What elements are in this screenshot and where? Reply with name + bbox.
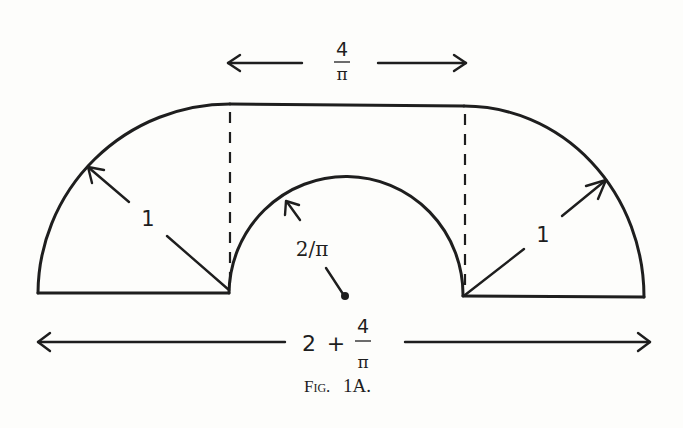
right-radius-lower-shaft	[465, 249, 524, 295]
bottom-dimension-arrow: 2 + 4 π	[38, 315, 650, 372]
top-width-denominator: π	[336, 64, 347, 84]
total-width-denominator: π	[357, 352, 368, 372]
inner-semicircle	[229, 177, 463, 296]
inner-radius-leader	[326, 268, 343, 294]
left-radius-label: 1	[141, 207, 154, 231]
top-dimension-arrow: 4 π	[228, 38, 466, 84]
left-radius-lower-shaft	[167, 236, 229, 290]
total-width-numerator: 4	[357, 315, 369, 337]
figure-caption: Fig. 1A.	[304, 375, 371, 396]
top-width-numerator: 4	[336, 38, 348, 60]
inner-radius-label: 2/π	[296, 237, 329, 261]
top-edge	[230, 104, 464, 106]
total-width-whole: 2	[302, 331, 316, 356]
right-outer-arc	[464, 106, 644, 297]
figure-1a-diagram: 4 π 1 1 2/π	[0, 0, 683, 428]
bottom-right-edge	[463, 296, 644, 297]
right-radius-arrow: 1	[465, 180, 606, 295]
left-radius-upper-shaft	[88, 167, 129, 202]
center-point-icon	[341, 292, 349, 300]
right-radius-label: 1	[536, 223, 549, 247]
total-width-plus: +	[327, 331, 345, 356]
caption-prefix: Fig.	[304, 377, 330, 396]
caption-number: 1A.	[343, 375, 371, 396]
left-radius-arrow: 1	[88, 167, 229, 290]
inner-radius-arrow: 2/π	[285, 201, 349, 300]
